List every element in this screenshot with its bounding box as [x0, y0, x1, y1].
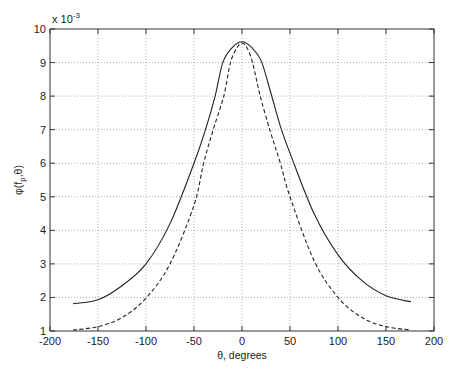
- x-axis-label: θ, degrees: [217, 349, 267, 361]
- y-tick-labels: 12345678910: [34, 23, 46, 337]
- y-tick-label: 10: [34, 23, 46, 35]
- x-tick-label: 50: [284, 335, 296, 347]
- y-scale-multiplier: x 10-3: [52, 11, 80, 25]
- y-scale-exponent: -3: [73, 11, 81, 20]
- grid-lines: [50, 29, 434, 331]
- y-tick-label: 9: [40, 57, 46, 69]
- y-tick-label: 4: [40, 224, 46, 236]
- y-tick-label: 8: [40, 90, 46, 102]
- y-scale-base: x 10: [52, 13, 73, 25]
- line-chart: -200-150-100-50050100150200 12345678910 …: [0, 0, 460, 371]
- x-tick-label: -50: [186, 335, 202, 347]
- x-tick-label: -150: [87, 335, 109, 347]
- x-tick-label: 0: [239, 335, 245, 347]
- x-tick-label: 100: [329, 335, 347, 347]
- x-tick-label: 150: [377, 335, 395, 347]
- x-tick-labels: -200-150-100-50050100150200: [39, 335, 443, 347]
- series-solid-line: [73, 42, 411, 304]
- y-tick-label: 2: [40, 291, 46, 303]
- y-tick-label: 7: [40, 124, 46, 136]
- y-tick-label: 5: [40, 191, 46, 203]
- y-tick-label: 1: [40, 325, 46, 337]
- x-tick-label: -100: [135, 335, 157, 347]
- y-axis-label: φ(fp,θ): [12, 165, 27, 195]
- y-tick-label: 6: [40, 157, 46, 169]
- y-tick-label: 3: [40, 258, 46, 270]
- x-tick-label: 200: [425, 335, 443, 347]
